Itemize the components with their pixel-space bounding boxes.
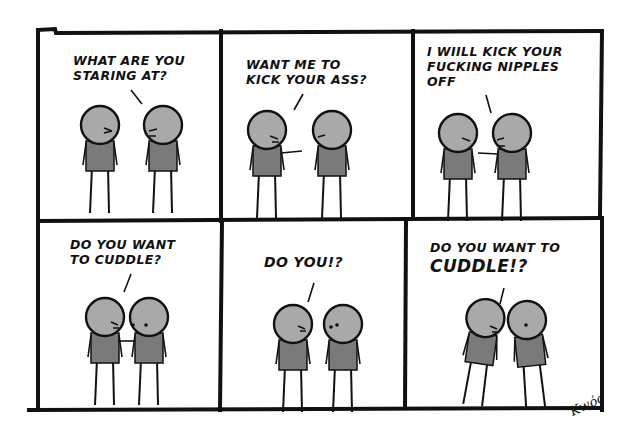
panel-3-figures [439, 114, 531, 221]
panel-6-figures [454, 297, 555, 410]
panel-6-caption-line2: Cuddle!? [430, 256, 528, 276]
panel-3-caption: I wiill kick your fucking nipples off [427, 44, 563, 89]
comic-strip: Kwóo What are you staring at? Want me to… [0, 0, 631, 447]
panel-6-caption-line1: Do you want to [430, 240, 560, 255]
panel-2-caption: Want me to kick your ass? [246, 57, 367, 87]
panel-5-caption: Do you!? [264, 255, 343, 270]
signature: Kwóo [567, 390, 607, 420]
panel-4-caption: Do you want to cuddle? [70, 237, 176, 267]
panel-2-figures [248, 111, 351, 218]
panel-4-figures [86, 298, 168, 405]
panel-1-caption: What are you staring at? [73, 53, 185, 83]
panel-5-figures [274, 305, 362, 412]
panel-1-figures [81, 106, 182, 213]
